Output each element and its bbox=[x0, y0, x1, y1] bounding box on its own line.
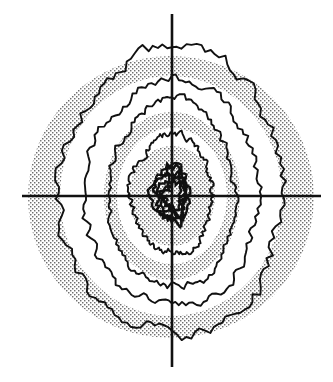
contour-figure bbox=[0, 0, 333, 382]
contour-plot-svg bbox=[0, 0, 333, 382]
